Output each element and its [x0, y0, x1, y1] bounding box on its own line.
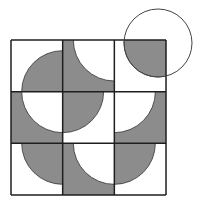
cell-0-2 [114, 9, 192, 92]
puzzle-diagram [0, 0, 201, 204]
grid-cells [11, 0, 192, 195]
